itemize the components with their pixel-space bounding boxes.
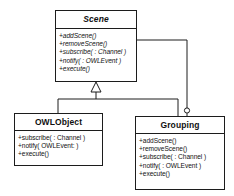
operation-item: +execute()	[59, 65, 134, 73]
operation-item: +removeScene()	[139, 145, 222, 153]
operation-item: +execute()	[18, 150, 100, 158]
operation-item: +notify( OWLEvent: )	[18, 142, 100, 150]
operation-item: +subscribe( : Channel )	[139, 153, 222, 161]
class-title-scene: Scene	[56, 11, 136, 29]
operation-item: +addScene()	[139, 137, 222, 145]
operation-item: +execute()	[139, 170, 222, 178]
class-title-grouping: Grouping	[136, 117, 224, 134]
generalization-edge-group	[58, 82, 178, 116]
class-box-grouping[interactable]: Grouping +addScene() +removeScene() +sub…	[135, 116, 225, 190]
class-box-owlobject[interactable]: OWLObject +subscribe( : Channel ) +notif…	[14, 113, 103, 166]
generalization-triangle-icon	[91, 82, 101, 92]
operation-item: +removeScene()	[59, 40, 134, 48]
class-operations-owlobject: +subscribe( : Channel ) +notify( OWLEven…	[15, 131, 102, 165]
association-open-circle-icon	[184, 108, 189, 113]
association-edge-group	[137, 40, 190, 116]
class-title-owlobject: OWLObject	[15, 114, 102, 131]
operation-item: +subscribe( : Channel )	[59, 48, 134, 56]
operation-item: +subscribe( : Channel )	[18, 134, 100, 142]
operation-item: +notify( : OWLEvent )	[59, 57, 134, 65]
class-operations-scene: +addScene() +removeScene() +subscribe( :…	[56, 29, 136, 81]
class-box-scene[interactable]: Scene +addScene() +removeScene() +subscr…	[55, 10, 137, 82]
operation-item: +addScene()	[59, 32, 134, 40]
class-operations-grouping: +addScene() +removeScene() +subscribe( :…	[136, 134, 224, 189]
uml-diagram-canvas: Scene +addScene() +removeScene() +subscr…	[0, 0, 234, 196]
operation-item: +notify( : OWLEvent )	[139, 162, 222, 170]
